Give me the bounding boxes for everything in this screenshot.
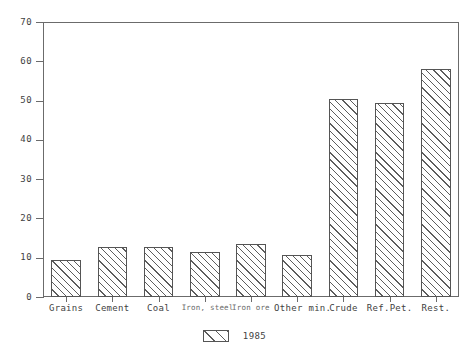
bar (375, 103, 405, 297)
y-axis-tick-label: 20 (4, 214, 32, 223)
x-axis-tick-label: Iron, steel (182, 303, 228, 313)
legend-label-1985: 1985 (243, 331, 266, 341)
x-axis-tick (390, 297, 391, 302)
x-axis-tick (436, 297, 437, 302)
x-axis-tick-label: Ref.Pet. (367, 303, 413, 313)
x-axis-tick (66, 297, 67, 302)
y-axis-tick-label: 0 (4, 293, 32, 302)
bar (282, 255, 312, 297)
bar (421, 69, 451, 297)
bar-chart: 010203040506070 GrainsCementCoalIron, st… (0, 0, 469, 364)
x-axis-tick-label: Iron ore (228, 303, 274, 313)
y-axis-tick-label: 50 (4, 96, 32, 105)
x-axis-tick (112, 297, 113, 302)
chart-legend: 1985 (0, 330, 469, 342)
x-axis-tick (205, 297, 206, 302)
bar (51, 260, 81, 297)
x-axis-tick (343, 297, 344, 302)
y-axis-tick-label: 60 (4, 57, 32, 66)
x-axis-tick-label: Crude (320, 303, 366, 313)
y-axis-tick-label: 70 (4, 18, 32, 27)
bar (236, 244, 266, 297)
y-axis-tick (36, 297, 44, 298)
bar (98, 247, 128, 297)
y-axis-tick-label: 30 (4, 175, 32, 184)
x-axis-tick-label: Coal (135, 303, 181, 313)
x-axis-tick (159, 297, 160, 302)
bar (329, 99, 359, 297)
y-axis-tick-label: 40 (4, 135, 32, 144)
x-axis-tick-label: Other min. (274, 303, 320, 313)
legend-swatch-1985 (203, 330, 229, 342)
x-axis-tick (251, 297, 252, 302)
x-axis-tick (297, 297, 298, 302)
x-axis-tick-label: Cement (89, 303, 135, 313)
bar (144, 247, 174, 297)
x-axis-tick-label: Grains (43, 303, 89, 313)
y-axis-tick-label: 10 (4, 253, 32, 262)
bar (190, 252, 220, 297)
x-axis-tick-label: Rest. (413, 303, 459, 313)
